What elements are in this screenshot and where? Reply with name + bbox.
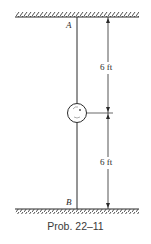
figure-caption: Prob. 22–11 <box>0 220 151 232</box>
dimension-upper-label: 6 ft <box>100 62 112 72</box>
dimension-lower-label: 6 ft <box>100 157 112 167</box>
bottom-support <box>15 209 139 214</box>
label-a: A <box>66 20 72 30</box>
disk-mass-icon <box>68 104 87 123</box>
dimension-line <box>87 17 118 209</box>
figure-diagram <box>0 0 151 244</box>
top-support <box>15 12 139 17</box>
label-b: B <box>66 197 72 207</box>
